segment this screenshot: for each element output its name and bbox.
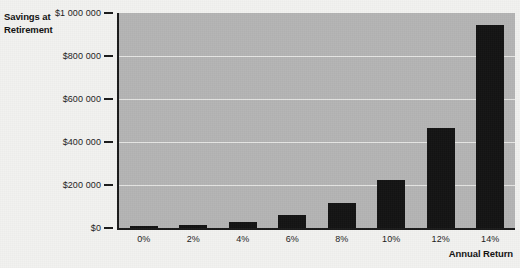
bar — [377, 180, 405, 228]
bar — [278, 215, 306, 228]
y-tick-label: $400 000 — [63, 137, 101, 147]
y-tick-mark — [104, 141, 113, 143]
x-tick-label: 6% — [286, 234, 299, 244]
y-tick-mark — [104, 55, 113, 57]
bar — [427, 128, 455, 228]
bar — [229, 222, 257, 228]
bar — [328, 203, 356, 228]
chart-figure: Savings at Retirement $0$200 000$400 000… — [0, 0, 520, 268]
x-tick-label: 0% — [137, 234, 150, 244]
y-tick-mark — [104, 98, 113, 100]
y-tick-mark — [104, 184, 113, 186]
y-tick-mark — [104, 227, 113, 229]
x-tick-label: 10% — [382, 234, 400, 244]
y-axis: $0$200 000$400 000$600 000$800 000$1 000… — [0, 0, 117, 232]
y-tick-label: $800 000 — [63, 51, 101, 61]
x-tick-label: 2% — [187, 234, 200, 244]
y-tick-label: $1 000 000 — [55, 8, 101, 18]
x-tick-label: 4% — [236, 234, 249, 244]
x-axis: 0%2%4%6%8%10%12%14% — [117, 230, 515, 248]
y-tick-label: $200 000 — [63, 180, 101, 190]
bar — [130, 226, 158, 228]
x-tick-label: 8% — [335, 234, 348, 244]
bar — [179, 225, 207, 228]
x-axis-title: Annual Return — [449, 248, 513, 259]
bar-series — [119, 13, 515, 228]
x-tick-label: 14% — [481, 234, 499, 244]
y-tick-mark — [104, 12, 113, 14]
plot-area — [117, 13, 515, 230]
y-tick-label: $0 — [91, 223, 101, 233]
x-tick-label: 12% — [432, 234, 450, 244]
bar — [476, 25, 504, 228]
y-tick-label: $600 000 — [63, 94, 101, 104]
